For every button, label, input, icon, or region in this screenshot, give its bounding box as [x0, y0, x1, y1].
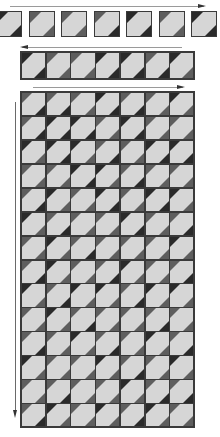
grid-block: [95, 188, 120, 212]
grid-block: [95, 164, 120, 188]
grid-block: [95, 116, 120, 140]
corner-triangle-top-left: [71, 284, 81, 294]
grid-block: [145, 164, 170, 188]
corner-triangle-top-left: [47, 284, 57, 294]
corner-triangle-top-left: [170, 93, 180, 103]
corner-triangle-bottom-right: [60, 369, 70, 379]
grid-block: [46, 260, 71, 284]
corner-triangle-top-left: [146, 237, 156, 247]
grid-block: [120, 331, 145, 355]
corner-triangle-bottom-right: [85, 416, 95, 426]
grid-block: [95, 283, 120, 307]
corner-triangle-bottom-right: [134, 153, 144, 163]
corner-triangle-bottom-right: [60, 249, 70, 259]
corner-triangle-bottom-right: [109, 105, 119, 115]
corner-triangle-top-left: [22, 165, 32, 175]
corner-triangle-bottom-right: [109, 345, 119, 355]
grid-block: [70, 188, 95, 212]
corner-triangle-top-left: [96, 213, 106, 223]
grid-block: [120, 92, 145, 116]
corner-triangle-bottom-right: [159, 105, 169, 115]
corner-triangle-bottom-right: [159, 321, 169, 331]
grid-block: [21, 140, 46, 164]
corner-triangle-top-left: [96, 141, 106, 151]
corner-triangle-top-left: [96, 189, 106, 199]
corner-triangle-bottom-right: [134, 105, 144, 115]
corner-triangle-top-left: [96, 53, 107, 64]
corner-triangle-bottom-right: [173, 25, 184, 36]
corner-triangle-top-left: [96, 165, 106, 175]
corner-triangle-top-left: [22, 189, 32, 199]
corner-triangle-top-left: [0, 12, 8, 23]
corner-triangle-bottom-right: [109, 416, 119, 426]
grid-block: [70, 260, 95, 284]
corner-triangle-top-left: [127, 12, 138, 23]
corner-triangle-bottom-right: [183, 273, 193, 283]
corner-triangle-bottom-right: [159, 177, 169, 187]
corner-triangle-bottom-right: [134, 369, 144, 379]
corner-triangle-bottom-right: [159, 225, 169, 235]
corner-triangle-bottom-right: [85, 105, 95, 115]
corner-triangle-bottom-right: [35, 153, 45, 163]
grid-block: [169, 331, 194, 355]
grid-block: [120, 260, 145, 284]
corner-triangle-bottom-right: [109, 177, 119, 187]
corner-triangle-top-left: [121, 117, 131, 127]
corner-triangle-bottom-right: [60, 153, 70, 163]
grid-block: [169, 355, 194, 379]
corner-triangle-bottom-right: [35, 321, 45, 331]
grid-block: [120, 355, 145, 379]
corner-triangle-top-left: [22, 261, 32, 271]
corner-triangle-bottom-right: [60, 177, 70, 187]
corner-triangle-bottom-right: [109, 201, 119, 211]
corner-triangle-bottom-right: [183, 297, 193, 307]
corner-triangle-bottom-right: [134, 321, 144, 331]
grid-block: [169, 283, 194, 307]
corner-triangle-bottom-right: [183, 177, 193, 187]
corner-triangle-top-left: [22, 53, 33, 64]
grid-block: [120, 212, 145, 236]
corner-triangle-bottom-right: [75, 25, 86, 36]
corner-triangle-top-left: [96, 404, 106, 414]
corner-triangle-bottom-right: [85, 129, 95, 139]
corner-triangle-top-left: [170, 332, 180, 342]
corner-triangle-bottom-right: [183, 345, 193, 355]
corner-triangle-bottom-right: [35, 345, 45, 355]
corner-triangle-top-left: [71, 261, 81, 271]
row2-block: [120, 52, 145, 79]
grid-block: [145, 212, 170, 236]
corner-triangle-bottom-right: [183, 105, 193, 115]
corner-triangle-bottom-right: [85, 345, 95, 355]
corner-triangle-bottom-right: [182, 67, 193, 78]
corner-triangle-top-left: [47, 117, 57, 127]
corner-triangle-bottom-right: [205, 25, 216, 36]
corner-triangle-bottom-right: [35, 105, 45, 115]
grid-block: [70, 116, 95, 140]
corner-triangle-top-left: [121, 261, 131, 271]
grid-block: [21, 379, 46, 403]
corner-triangle-top-left: [146, 93, 156, 103]
grid-block: [120, 140, 145, 164]
corner-triangle-bottom-right: [183, 129, 193, 139]
grid-block: [145, 307, 170, 331]
grid-block: [46, 355, 71, 379]
corner-triangle-bottom-right: [109, 129, 119, 139]
corner-triangle-top-left: [146, 189, 156, 199]
corner-triangle-top-left: [146, 404, 156, 414]
grid-block: [145, 92, 170, 116]
corner-triangle-bottom-right: [159, 153, 169, 163]
corner-triangle-top-left: [170, 53, 181, 64]
row2-joined-strip: [20, 51, 195, 80]
corner-triangle-bottom-right: [159, 249, 169, 259]
row2-arrowhead-icon: [20, 45, 28, 49]
corner-triangle-bottom-right: [159, 201, 169, 211]
corner-triangle-top-left: [47, 356, 57, 366]
grid-block: [70, 164, 95, 188]
corner-triangle-top-left: [96, 284, 106, 294]
grid-block: [46, 283, 71, 307]
corner-triangle-bottom-right: [85, 321, 95, 331]
grid-block: [70, 307, 95, 331]
corner-triangle-bottom-right: [60, 201, 70, 211]
corner-triangle-top-left: [121, 189, 131, 199]
grid-block: [95, 212, 120, 236]
